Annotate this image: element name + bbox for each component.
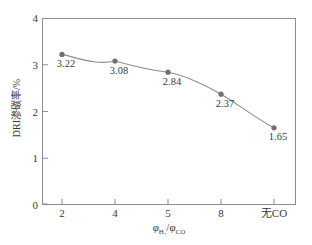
data-point-3 xyxy=(165,70,170,75)
data-point-5 xyxy=(271,125,276,130)
y-tick-label-4: 4 xyxy=(4,13,38,24)
data-point-2 xyxy=(112,58,117,63)
x-tick-label-4: 8 xyxy=(218,207,224,219)
chart-figure: 0 1 2 3 4 2 4 5 8 无CO 3.22 3.08 2.84 2.3… xyxy=(0,0,312,245)
data-label-3: 2.84 xyxy=(163,76,181,87)
data-point-4 xyxy=(218,92,223,97)
y-axis-title: DRI渗碳率/% xyxy=(11,58,23,158)
data-markers xyxy=(59,52,276,131)
x-tick-marks xyxy=(62,199,274,205)
chart-plot-svg xyxy=(42,18,296,205)
data-label-5: 1.65 xyxy=(269,131,287,142)
x-axis-title: φH₂/φCO xyxy=(42,221,296,239)
x-tick-label-3: 5 xyxy=(165,207,171,219)
data-label-1: 3.22 xyxy=(57,58,75,69)
x-tick-label-5: 无CO xyxy=(261,207,287,219)
y-tick-label-0: 0 xyxy=(4,200,38,211)
x-tick-label-1: 2 xyxy=(59,207,65,219)
data-label-2: 3.08 xyxy=(110,65,128,76)
data-line xyxy=(62,54,274,127)
y-tick-marks xyxy=(42,18,48,204)
x-tick-label-2: 4 xyxy=(112,207,118,219)
data-point-1 xyxy=(59,52,64,57)
x-axis-title-co: CO xyxy=(176,228,186,236)
data-label-4: 2.37 xyxy=(216,98,234,109)
